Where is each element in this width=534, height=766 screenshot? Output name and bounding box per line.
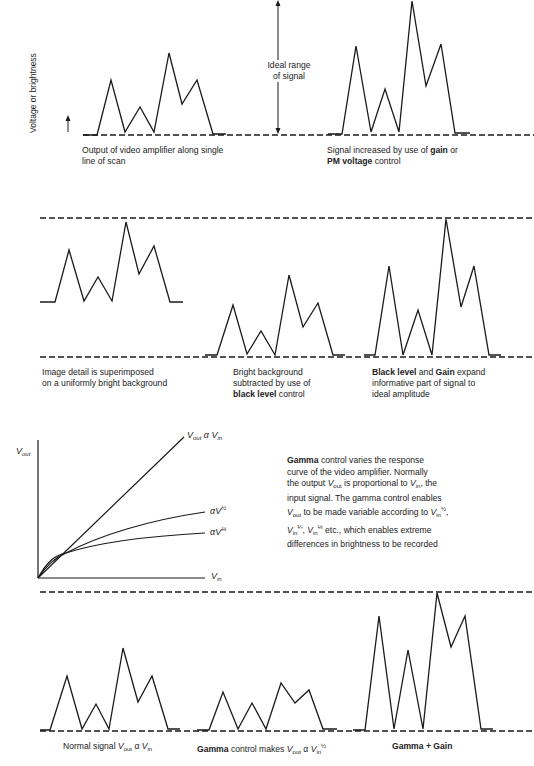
caption-text: control varies the response	[319, 455, 425, 465]
s: in	[313, 530, 318, 536]
waveform-gamma	[197, 683, 337, 730]
label-exp: ¼	[221, 526, 226, 532]
t: ,	[446, 507, 448, 517]
label-v: αV	[210, 527, 221, 537]
gamma-curve-quarter	[38, 533, 205, 578]
caption-line: line of scan	[82, 156, 223, 167]
arrow-head-up	[276, 0, 281, 6]
caption-gain: Signal increased by use of gain or PM vo…	[327, 145, 458, 167]
t: the output	[287, 478, 328, 488]
gamma-curve-linear	[38, 437, 184, 578]
caption-gamma: Gamma control makes Vout α Vin½	[197, 741, 326, 758]
caption-output: Output of video amplifier along single l…	[82, 145, 223, 167]
s: in	[293, 530, 298, 536]
caption-bold: Gamma	[287, 455, 319, 465]
t: to be made variable according to	[301, 507, 430, 517]
label-sub: in	[217, 576, 222, 582]
curve-label-half: αV½	[210, 505, 226, 516]
caption-black-level-gain: Black level and Gain expand informative …	[372, 367, 485, 400]
caption-line: Bright background	[233, 367, 310, 378]
waveform-gain	[328, 1, 470, 134]
caption-bright-background: Image detail is superimposed on a unifor…	[42, 367, 167, 389]
caption-line: differences in brightness to be recorded	[287, 539, 448, 551]
waveform-gamma-gain	[353, 593, 493, 730]
s: out	[124, 746, 132, 752]
caption-text: or	[448, 145, 458, 155]
gamma-curve-half	[38, 512, 205, 578]
label-mid: α V	[201, 430, 217, 440]
caption-line: Image detail is superimposed	[42, 367, 167, 378]
s: in	[148, 746, 153, 752]
t: , the	[420, 478, 437, 488]
label-v: αV	[210, 506, 221, 516]
caption-gamma-gain: Gamma + Gain	[392, 741, 452, 752]
t: α	[132, 741, 142, 751]
t: Normal signal	[63, 741, 118, 751]
caption-line: informative part of signal to	[372, 378, 485, 389]
caption-bold: gain	[430, 145, 448, 155]
caption-text: control	[372, 156, 400, 166]
caption-line: input signal. The gamma control enables	[287, 493, 448, 505]
t: control makes	[229, 744, 287, 754]
s: in	[316, 749, 321, 755]
label-sub: out	[22, 451, 30, 457]
gamma-y-label: Vout	[16, 446, 30, 457]
waveform-black-level-gain	[364, 219, 501, 355]
arrow-head-down	[276, 128, 281, 134]
s: out	[293, 512, 301, 518]
caption-line: Output of video amplifier along single	[82, 145, 223, 156]
waveform-bright-background	[40, 222, 183, 302]
caption-line: on a uniformly bright background	[42, 378, 167, 389]
gamma-x-label: Vin	[211, 571, 222, 582]
s: in	[436, 512, 441, 518]
label-exp: ½	[221, 505, 226, 511]
caption-bold: Gain	[436, 367, 455, 377]
caption-bold: Black level	[372, 367, 416, 377]
t: α	[301, 744, 311, 754]
e: ½	[321, 743, 326, 749]
t: is proportional to	[342, 478, 410, 488]
caption-line: ideal amplitude	[372, 389, 485, 400]
s: out	[293, 749, 301, 755]
caption-text: Signal increased by use of	[327, 145, 430, 155]
ideal-range-line1: Ideal range	[254, 60, 324, 71]
curve-label-linear: Vout α Vin	[187, 430, 222, 441]
caption-normal-signal: Normal signal Vout α Vin	[63, 741, 152, 755]
caption-black-level: Bright background subtracted by use of b…	[233, 367, 310, 400]
caption-line: subtracted by use of	[233, 378, 310, 389]
curve-label-quarter: αV¼	[210, 526, 226, 537]
caption-bold: PM voltage	[327, 156, 372, 166]
caption-line: curve of the video amplifier. Normally	[287, 467, 448, 479]
caption-text: and	[416, 367, 435, 377]
axis-label-voltage: Voltage or brightness	[28, 53, 38, 133]
up-arrow-head	[66, 115, 71, 121]
ideal-range-line2: of signal	[254, 71, 324, 82]
s: out	[333, 483, 341, 489]
label-sub: in	[218, 435, 223, 441]
t: etc., which enables extreme	[323, 525, 432, 535]
caption-text: expand	[455, 367, 486, 377]
caption-text: control	[276, 389, 304, 399]
caption-bold: black level	[233, 389, 276, 399]
ideal-range-label: Ideal range of signal	[254, 60, 324, 82]
gamma-description: Gamma control varies the response curve …	[287, 455, 448, 551]
waveform-black-level	[205, 275, 345, 355]
waveform-output	[83, 53, 226, 135]
b: Gamma	[197, 744, 229, 754]
waveform-normal	[40, 648, 180, 730]
